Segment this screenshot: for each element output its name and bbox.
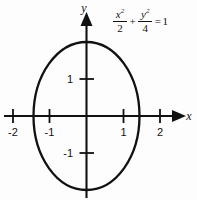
y-exponent: 2 [146,7,150,15]
equation-right-side: 1 [162,15,168,27]
fraction-x-numerator: x2 [114,8,126,20]
y-axis-label: y [80,1,87,15]
equals-operator: = [155,15,161,27]
x-exponent: 2 [121,7,125,15]
x-axis-arrowhead [172,110,186,122]
fraction-y-term: y2 4 [138,8,152,35]
y-tick-label-minus1: -1 [63,147,73,159]
x-tick-label-plus2: 2 [157,126,163,138]
ellipse-figure: -2 -1 1 2 1 -1 x y x2 2 + y2 4 = 1 [0,0,197,200]
plus-operator: + [130,15,136,27]
fraction-y-numerator: y2 [139,8,151,20]
x-axis-label: x [185,109,192,123]
fraction-y-denominator: 4 [140,23,150,35]
x-tick-label-minus2: -2 [8,126,18,138]
y-tick-label-plus1: 1 [67,73,73,85]
x-tick-label-minus1: -1 [45,126,55,138]
x-tick-label-plus1: 1 [120,126,126,138]
fraction-x-term: x2 2 [113,8,127,35]
fraction-x-denominator: 2 [115,23,125,35]
equation-annotation: x2 2 + y2 4 = 1 [112,8,168,35]
